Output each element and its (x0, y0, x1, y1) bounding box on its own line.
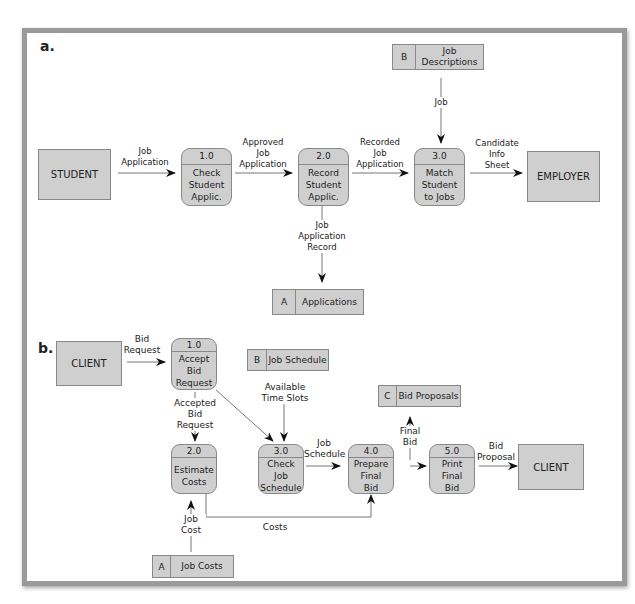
store-id: B (248, 350, 267, 370)
flow-bid-proposal: Bid Proposal (476, 441, 516, 463)
store-name: Job Costs (171, 556, 233, 577)
process-name: Check Student Applic. (182, 165, 231, 205)
store-b-job-schedule[interactable]: B Job Schedule (247, 349, 329, 371)
entity-student[interactable]: STUDENT (38, 149, 111, 200)
flow-job-application-record: Job Application Record (297, 220, 347, 253)
process-2-record-student-applic[interactable]: 2.0 Record Student Applic. (298, 148, 349, 206)
flow-available-time-slots: Available Time Slots (256, 382, 314, 404)
store-id: A (273, 290, 296, 314)
process-1-check-student-applic[interactable]: 1.0 Check Student Applic. (181, 148, 232, 206)
store-c-bid-proposals[interactable]: C Bid Proposals (378, 385, 461, 407)
section-b-label: b. (38, 340, 53, 356)
process-name: Prepare Final Bid (349, 458, 393, 494)
process-id: 4.0 (349, 445, 393, 458)
flow-job-application: Job Application (120, 146, 170, 168)
store-id: A (153, 556, 171, 577)
process-id: 5.0 (430, 445, 474, 458)
process-5-print-final-bid[interactable]: 5.0 Print Final Bid (429, 444, 475, 494)
process-3-check-job-schedule[interactable]: 3.0 Check Job Schedule (258, 444, 304, 494)
flow-candidate-info-sheet: Candidate Info Sheet (472, 138, 522, 171)
process-id: 3.0 (415, 149, 464, 165)
flow-job-cost: Job Cost (176, 514, 206, 536)
process-name: Estimate Costs (172, 458, 216, 493)
section-a-label: a. (40, 38, 55, 54)
process-id: 3.0 (259, 445, 303, 458)
entity-employer[interactable]: EMPLOYER (527, 151, 600, 202)
entity-client-left[interactable]: CLIENT (56, 341, 122, 386)
process-name: Match Student to Jobs (415, 165, 464, 205)
process-3-match-student-to-jobs[interactable]: 3.0 Match Student to Jobs (414, 148, 465, 206)
store-a-applications[interactable]: A Applications (272, 289, 364, 315)
store-b-job-descriptions[interactable]: B Job Descriptions (392, 44, 484, 70)
store-name: Bid Proposals (397, 386, 460, 406)
process-4-prepare-final-bid[interactable]: 4.0 Prepare Final Bid (348, 444, 394, 494)
process-id: 2.0 (299, 149, 348, 165)
flow-costs: Costs (255, 522, 295, 533)
process-name: Check Job Schedule (259, 458, 303, 494)
store-name: Job Schedule (267, 350, 328, 370)
process-name: Record Student Applic. (299, 165, 348, 205)
flow-bid-request: Bid Request (122, 334, 162, 356)
process-name: Accept Bid Request (172, 352, 216, 389)
process-1-accept-bid-request[interactable]: 1.0 Accept Bid Request (171, 338, 217, 390)
store-name: Job Descriptions (416, 45, 483, 69)
process-id: 1.0 (172, 339, 216, 352)
flow-job-schedule: Job Schedule (304, 438, 344, 460)
store-a-job-costs[interactable]: A Job Costs (152, 555, 234, 578)
entity-client-right[interactable]: CLIENT (518, 444, 584, 490)
flow-job: Job (428, 97, 454, 108)
process-name: Print Final Bid (430, 458, 474, 494)
store-name: Applications (296, 290, 363, 314)
process-id: 2.0 (172, 445, 216, 458)
flow-approved-job-application: Approved Job Application (238, 137, 288, 170)
process-id: 1.0 (182, 149, 231, 165)
store-id: C (379, 386, 397, 406)
flow-final-bid: Final Bid (397, 426, 423, 448)
flow-recorded-job-application: Recorded Job Application (355, 137, 405, 170)
store-id: B (393, 45, 416, 69)
process-2-estimate-costs[interactable]: 2.0 Estimate Costs (171, 444, 217, 494)
flow-accepted-bid-request: Accepted Bid Request (170, 398, 220, 431)
